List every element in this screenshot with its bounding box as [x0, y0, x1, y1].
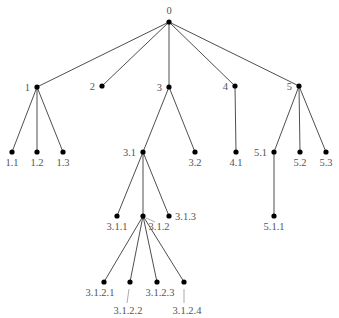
node-dot-0 — [166, 19, 171, 24]
edge-0-to-1 — [37, 22, 169, 87]
node-dot-4 — [232, 83, 237, 88]
node-label-1.2: 1.2 — [30, 157, 43, 168]
node-dot-5.1 — [271, 149, 276, 154]
node-dot-1.1 — [9, 149, 14, 154]
node-dot-5.1.1 — [271, 213, 276, 218]
node-dot-3.1.2.2 — [127, 279, 132, 284]
node-dot-1.3 — [60, 149, 65, 154]
edge-3.1-to-3.1.3 — [143, 152, 169, 216]
node-dot-5 — [296, 83, 301, 88]
node-dot-3.1.1 — [114, 213, 119, 218]
node-label-0: 0 — [166, 5, 171, 16]
node-label-3.1.2.3: 3.1.2.3 — [146, 287, 175, 298]
edge-5-to-5.1 — [274, 86, 299, 152]
node-label-3.1.2.1: 3.1.2.1 — [86, 287, 115, 298]
node-dot-3.1.2.3 — [154, 279, 159, 284]
edge-3-to-3.1 — [143, 87, 169, 152]
node-dot-3.1 — [140, 149, 145, 154]
node-dot-5.2 — [297, 149, 302, 154]
node-label-3.2: 3.2 — [188, 157, 201, 168]
edge-0-to-4 — [169, 22, 235, 86]
node-dot-5.3 — [323, 149, 328, 154]
node-label-5.1: 5.1 — [254, 147, 267, 158]
node-label-1: 1 — [25, 82, 30, 93]
node-label-3.1.2.4: 3.1.2.4 — [173, 305, 203, 316]
node-dot-4.1 — [233, 149, 238, 154]
node-label-4.1: 4.1 — [229, 157, 242, 168]
node-label-3.1.2.2: 3.1.2.2 — [114, 305, 143, 316]
node-dot-3 — [166, 84, 171, 89]
node-label-1.3: 1.3 — [56, 157, 69, 168]
node-label-3.1.3: 3.1.3 — [175, 211, 196, 222]
node-label-2: 2 — [90, 81, 95, 92]
edge-0-to-5 — [169, 22, 299, 86]
node-label-4: 4 — [223, 81, 229, 92]
edge-0-to-2 — [102, 22, 169, 86]
edge-1-to-1.1 — [12, 87, 37, 152]
node-label-5.3: 5.3 — [319, 157, 332, 168]
edge-5-to-5.2 — [299, 86, 300, 152]
edge-4-to-4.1 — [235, 86, 236, 152]
node-label-3.1: 3.1 — [123, 147, 136, 158]
tree-edges — [12, 22, 326, 282]
node-dot-3.1.2 — [140, 213, 145, 218]
edge-5-to-5.3 — [299, 86, 326, 152]
node-label-3.1.2: 3.1.2 — [149, 221, 170, 232]
node-dot-1.2 — [34, 149, 39, 154]
node-dot-3.2 — [192, 149, 197, 154]
node-label-5.1.1: 5.1.1 — [264, 221, 285, 232]
edge-3.1.2-to-3.1.2.2 — [130, 216, 143, 282]
tree-diagram: 0123451.11.21.33.13.24.15.15.25.33.1.13.… — [0, 0, 339, 318]
node-label-3: 3 — [157, 82, 162, 93]
node-label-5.2: 5.2 — [293, 157, 306, 168]
node-dot-3.1.3 — [166, 213, 171, 218]
leader-line-3.1.2.2 — [127, 289, 129, 303]
node-dot-3.1.2.1 — [101, 279, 106, 284]
node-label-1.1: 1.1 — [5, 157, 18, 168]
edge-1-to-1.3 — [37, 87, 63, 152]
node-label-3.1.1: 3.1.1 — [107, 221, 128, 232]
node-dot-3.1.2.4 — [181, 279, 186, 284]
node-dot-2 — [99, 83, 104, 88]
node-dot-1 — [34, 84, 39, 89]
node-label-5: 5 — [287, 81, 292, 92]
edge-3.1-to-3.1.1 — [117, 152, 143, 216]
edge-3-to-3.2 — [169, 87, 195, 152]
